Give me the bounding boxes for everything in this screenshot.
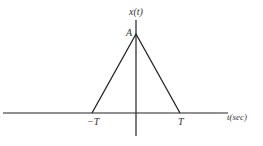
- peak-label: A: [125, 27, 133, 38]
- left-tick-label: −T: [87, 116, 101, 127]
- y-axis-label: x(t): [128, 6, 144, 18]
- x-axis-label: t(sec): [227, 112, 247, 122]
- triangular-pulse-diagram: x(t) A −T T t(sec): [0, 0, 263, 146]
- plot-canvas: x(t) A −T T t(sec): [0, 0, 263, 146]
- right-tick-label: T: [178, 116, 185, 127]
